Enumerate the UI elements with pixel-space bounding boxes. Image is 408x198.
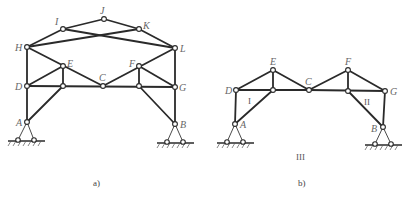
joint-D [234,88,239,93]
label-D: D [224,85,233,96]
joint-E [271,68,276,73]
joint-right-inner [137,84,142,89]
member-D-E [27,66,63,86]
joint-K [137,27,142,32]
joint-A [233,122,238,127]
support-a [8,122,45,146]
label-D: D [14,81,23,92]
label-B: B [180,119,186,130]
joint-right-inner [346,89,351,94]
joint-left-inner [271,88,276,93]
label-F: F [128,58,136,69]
member-I-J [63,19,104,29]
joint-F [137,64,142,69]
caption-b: b) [298,178,306,188]
member-A-inner [27,86,63,122]
label-G: G [390,86,397,97]
joint-F [346,68,351,73]
member-J-K [104,19,139,29]
joint-left-inner [61,84,66,89]
label-B: B [371,123,377,134]
member-D-A [235,90,236,124]
truss-diagram: H I J K L E F D C G A B a) [0,0,408,198]
label-G: G [179,82,186,93]
joint-E [61,64,66,69]
figure-a-labels: H I J K L E F D C G A B a) [14,5,186,188]
support-b [157,124,194,148]
figure-b-labels: D E C F G A B I II III b) [224,56,397,188]
label-F: F [344,56,352,67]
joint-J [102,17,107,22]
label-C: C [305,76,312,87]
label-H: H [14,42,23,53]
figure-b: D E C F G A B I II III b) [217,56,402,188]
label-A: A [15,117,23,128]
label-E: E [66,58,73,69]
joint-C [101,84,106,89]
member-D-E [236,70,273,90]
joint-G [383,89,388,94]
joint-C [307,88,312,93]
member-F-G [139,66,175,87]
label-E: E [269,56,276,67]
body-label-II: II [364,97,370,107]
joint-L [173,46,178,51]
label-A: A [239,119,247,130]
joint-A [25,120,30,125]
body-label-I: I [248,96,251,106]
joint-B [381,125,386,130]
member-F-G [348,70,385,91]
joint-H [25,45,30,50]
support-b-a [217,124,254,148]
label-I: I [54,16,59,27]
label-C: C [99,72,106,83]
body-label-III: III [296,152,305,162]
label-K: K [142,20,151,31]
member-G-B [383,91,385,127]
label-L: L [179,43,186,54]
joint-I [61,27,66,32]
joint-B [173,122,178,127]
member-B-inner [139,86,175,124]
member-C-F [309,70,348,90]
member-E-C [273,70,309,90]
joint-G [173,85,178,90]
label-J: J [100,5,105,16]
caption-a: a) [93,178,100,188]
figure-a: H I J K L E F D C G A B a) [8,5,194,188]
joint-D [25,84,30,89]
